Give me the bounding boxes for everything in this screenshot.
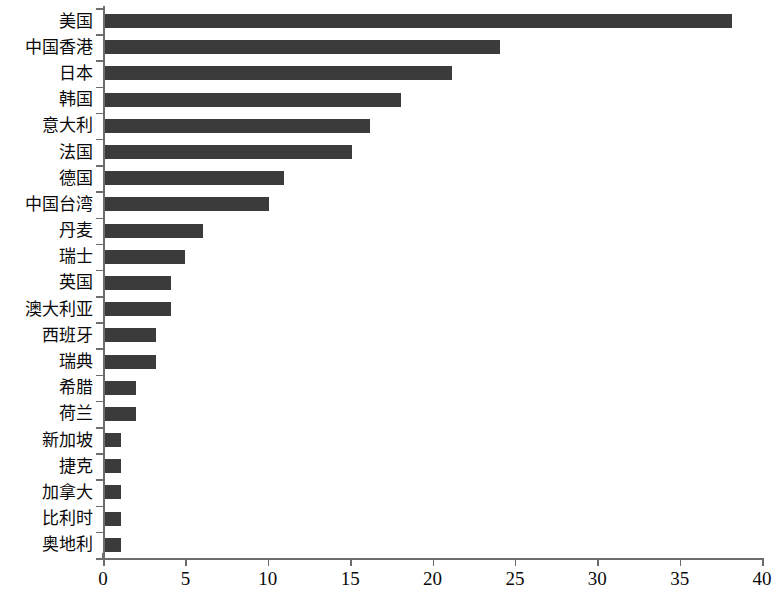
bar-row xyxy=(103,165,762,191)
y-axis-tick xyxy=(96,506,103,508)
category-label: 中国台湾 xyxy=(25,196,93,213)
x-axis-tick xyxy=(433,558,435,566)
category-axis: 美国中国香港日本韩国意大利法国德国中国台湾丹麦瑞士英国澳大利亚西班牙瑞典希腊荷兰… xyxy=(0,8,98,558)
plot-area xyxy=(103,8,762,558)
category-label: 西班牙 xyxy=(42,327,93,344)
category-label-row: 加拿大 xyxy=(0,479,98,505)
x-axis-tick xyxy=(762,558,764,566)
x-axis-tick-label: 15 xyxy=(341,568,360,590)
category-label-row: 新加坡 xyxy=(0,427,98,453)
y-axis-tick xyxy=(96,296,103,298)
bar xyxy=(103,276,171,290)
y-axis-tick xyxy=(96,348,103,350)
y-axis-tick xyxy=(96,8,103,10)
x-axis-tick-label: 5 xyxy=(181,568,191,590)
category-label: 新加坡 xyxy=(42,432,93,449)
bars-layer xyxy=(103,8,762,558)
category-label-row: 希腊 xyxy=(0,375,98,401)
bar xyxy=(103,197,269,211)
y-axis-tick xyxy=(96,322,103,324)
bar xyxy=(103,66,452,80)
y-axis-tick xyxy=(96,87,103,89)
category-label: 日本 xyxy=(59,65,93,82)
bar-row xyxy=(103,139,762,165)
bar xyxy=(103,302,171,316)
bar xyxy=(103,328,156,342)
category-label: 瑞士 xyxy=(59,248,93,265)
x-axis-tick-label: 30 xyxy=(588,568,607,590)
category-label: 意大利 xyxy=(42,117,93,134)
category-label-row: 英国 xyxy=(0,270,98,296)
category-label-row: 美国 xyxy=(0,8,98,34)
bar xyxy=(103,93,401,107)
bar xyxy=(103,538,121,552)
y-axis-tick xyxy=(96,244,103,246)
bar xyxy=(103,145,352,159)
bar xyxy=(103,381,136,395)
x-axis-tick xyxy=(680,558,682,566)
x-axis-tick-label: 25 xyxy=(505,568,524,590)
y-axis-tick xyxy=(96,113,103,115)
bar-row xyxy=(103,375,762,401)
category-label-row: 中国香港 xyxy=(0,34,98,60)
category-label-row: 荷兰 xyxy=(0,401,98,427)
bar-row xyxy=(103,8,762,34)
bar-row xyxy=(103,506,762,532)
bar-row xyxy=(103,60,762,86)
y-axis-tick xyxy=(96,532,103,534)
x-axis-tick xyxy=(103,558,105,566)
category-label: 中国香港 xyxy=(25,39,93,56)
x-axis-tick xyxy=(350,558,352,566)
bar-row xyxy=(103,348,762,374)
category-label: 希腊 xyxy=(59,379,93,396)
category-label: 丹麦 xyxy=(59,222,93,239)
bar xyxy=(103,171,284,185)
category-label-row: 日本 xyxy=(0,60,98,86)
category-label-row: 丹麦 xyxy=(0,218,98,244)
bar-row xyxy=(103,34,762,60)
bar-row xyxy=(103,427,762,453)
category-label-row: 韩国 xyxy=(0,87,98,113)
x-axis-tick-label: 35 xyxy=(670,568,689,590)
bar-row xyxy=(103,532,762,558)
x-axis: 0510152025303540 xyxy=(0,558,773,596)
bar-row xyxy=(103,296,762,322)
category-label-row: 比利时 xyxy=(0,506,98,532)
category-label: 韩国 xyxy=(59,91,93,108)
x-axis-tick-label: 0 xyxy=(98,568,108,590)
category-label: 捷克 xyxy=(59,458,93,475)
bar-row xyxy=(103,218,762,244)
x-axis-tick xyxy=(515,558,517,566)
bar-row xyxy=(103,113,762,139)
category-label-row: 中国台湾 xyxy=(0,191,98,217)
category-label: 加拿大 xyxy=(42,484,93,501)
bar-row xyxy=(103,270,762,296)
bar xyxy=(103,119,370,133)
bar-row xyxy=(103,401,762,427)
category-label-row: 意大利 xyxy=(0,113,98,139)
y-axis-tick xyxy=(96,218,103,220)
category-label-row: 澳大利亚 xyxy=(0,296,98,322)
bar-row xyxy=(103,191,762,217)
x-axis-tick-label: 20 xyxy=(423,568,442,590)
category-label-row: 瑞典 xyxy=(0,348,98,374)
category-label: 澳大利亚 xyxy=(25,301,93,318)
category-label: 荷兰 xyxy=(59,405,93,422)
category-label: 英国 xyxy=(59,274,93,291)
category-label-row: 瑞士 xyxy=(0,244,98,270)
y-axis-tick xyxy=(96,375,103,377)
category-label: 比利时 xyxy=(42,510,93,527)
bar xyxy=(103,459,121,473)
y-axis-tick xyxy=(96,270,103,272)
bar-chart: 美国中国香港日本韩国意大利法国德国中国台湾丹麦瑞士英国澳大利亚西班牙瑞典希腊荷兰… xyxy=(0,0,773,596)
x-axis-tick-label: 40 xyxy=(753,568,772,590)
category-label: 法国 xyxy=(59,144,93,161)
category-label: 美国 xyxy=(59,13,93,30)
category-label-row: 奥地利 xyxy=(0,532,98,558)
y-axis-line xyxy=(103,6,105,560)
category-label-row: 西班牙 xyxy=(0,322,98,348)
bar xyxy=(103,14,732,28)
category-label-row: 法国 xyxy=(0,139,98,165)
category-label: 奥地利 xyxy=(42,536,93,553)
x-axis-tick xyxy=(597,558,599,566)
